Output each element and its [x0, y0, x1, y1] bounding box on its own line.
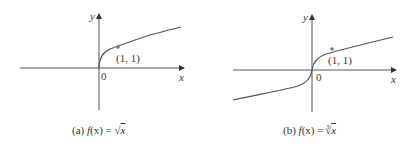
- graph-a-point-1-1: [116, 45, 120, 49]
- graph-a-origin-label: 0: [101, 70, 107, 82]
- graph-a-y-label: y: [90, 10, 95, 22]
- graph-a-caption: (a) f(x) = √x: [72, 124, 126, 136]
- graph-a-curve: [99, 27, 181, 68]
- graph-b: [233, 15, 396, 112]
- graph-b-point-label: (1, 1): [328, 54, 352, 66]
- graph-b-x-label: x: [391, 73, 396, 85]
- graph-a-point-label: (1, 1): [116, 52, 140, 64]
- graph-b-point-1-1: [330, 47, 334, 51]
- graph-b-curve: [233, 37, 393, 100]
- graph-a: [20, 14, 184, 110]
- graphs-canvas: [0, 0, 410, 147]
- graph-b-caption: (b) f(x) = 3√x: [283, 124, 336, 136]
- graph-b-origin-label: 0: [316, 71, 322, 83]
- graph-b-y-label: y: [303, 11, 308, 23]
- graph-a-x-label: x: [179, 71, 184, 83]
